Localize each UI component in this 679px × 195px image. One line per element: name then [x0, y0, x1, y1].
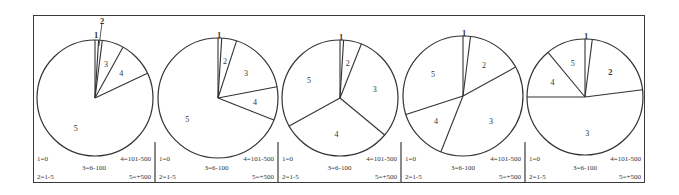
slice-label-4: 4 — [253, 98, 257, 107]
legend-item-4: 4=101-500 — [610, 155, 641, 163]
legend: 1=04=101-5003=6-1002=1-55=+500 — [405, 155, 521, 181]
legend-item-1: 1=0 — [37, 155, 48, 163]
slice-label-5: 5 — [307, 76, 311, 85]
pie-charts-panel: 123451=04=101-5003=6-1002=1-55=+50012345… — [0, 0, 679, 195]
legend-item-5: 5=+500 — [375, 173, 397, 181]
legend-item-1: 1=0 — [159, 155, 170, 163]
legend-item-1: 1=0 — [529, 155, 540, 163]
pie-chart-2: 123451=04=101-5003=6-1002=1-55=+500 — [158, 30, 278, 181]
legend-item-2: 2=1-5 — [282, 173, 299, 181]
legend-item-5: 5=+500 — [129, 173, 151, 181]
legend: 1=04=101-5003=6-1002=1-55=+500 — [159, 155, 274, 181]
legend-item-3: 3=6-100 — [451, 164, 475, 172]
legend-item-3: 3=6-100 — [205, 164, 229, 172]
slice-label-1: 1 — [217, 30, 221, 40]
pie-chart-4: 123451=04=101-5003=6-1002=1-55=+500 — [403, 28, 523, 181]
pie-chart-1: 123451=04=101-5003=6-1002=1-55=+500 — [37, 16, 153, 181]
legend-item-3: 3=6-100 — [328, 164, 352, 172]
slice-label-2: 2 — [100, 16, 104, 26]
slice-label-5: 5 — [431, 70, 435, 79]
slice-label-1: 1 — [584, 31, 588, 41]
pie-chart-5: 123451=04=101-5003=6-1002=1-55=+500 — [527, 31, 643, 181]
legend-item-2: 2=1-5 — [405, 173, 422, 181]
legend: 1=04=101-5003=6-1002=1-55=+500 — [529, 155, 641, 181]
slice-label-1: 1 — [94, 30, 98, 40]
slice-label-3: 3 — [585, 129, 589, 138]
legend-item-1: 1=0 — [405, 155, 416, 163]
slice-label-3: 3 — [104, 60, 108, 69]
slice-label-4: 4 — [119, 69, 123, 78]
slice-label-5: 5 — [185, 115, 189, 124]
slice-label-4: 4 — [335, 130, 339, 139]
slice-label-2: 2 — [482, 61, 486, 70]
slice-label-4: 4 — [434, 117, 438, 126]
slice-label-5: 5 — [571, 59, 575, 68]
legend-item-1: 1=0 — [282, 155, 293, 163]
legend-item-2: 2=1-5 — [159, 173, 176, 181]
legend-item-3: 3=6-100 — [573, 164, 597, 172]
legend-item-5: 5=+500 — [499, 173, 521, 181]
slice-label-5: 5 — [74, 124, 78, 133]
slice-label-1: 1 — [462, 28, 466, 38]
slice-label-1: 1 — [339, 32, 343, 42]
legend-item-5: 5=+500 — [619, 173, 641, 181]
legend-item-4: 4=101-500 — [243, 155, 274, 163]
legend-item-2: 2=1-5 — [529, 173, 546, 181]
legend: 1=04=101-5003=6-1002=1-55=+500 — [37, 155, 151, 181]
legend: 1=04=101-5003=6-1002=1-55=+500 — [282, 155, 397, 181]
legend-item-4: 4=101-500 — [366, 155, 397, 163]
slice-label-3: 3 — [489, 117, 493, 126]
slice-label-3: 3 — [373, 85, 377, 94]
slice-label-2: 2 — [346, 59, 350, 68]
legend-item-3: 3=6-100 — [82, 164, 106, 172]
slice-label-2: 2 — [223, 57, 227, 66]
legend-item-2: 2=1-5 — [37, 173, 54, 181]
legend-item-4: 4=101-500 — [490, 155, 521, 163]
pie-chart-3: 123451=04=101-5003=6-1002=1-55=+500 — [282, 32, 398, 181]
legend-item-4: 4=101-500 — [120, 155, 151, 163]
slice-label-3: 3 — [244, 69, 248, 78]
legend-item-5: 5=+500 — [252, 173, 274, 181]
slice-label-2: 2 — [608, 67, 612, 77]
slice-label-4: 4 — [550, 78, 554, 87]
